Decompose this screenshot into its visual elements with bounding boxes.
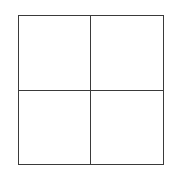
grid-cell-bottom-right bbox=[91, 91, 163, 164]
grid-cell-top-left bbox=[19, 16, 91, 91]
grid-cell-top-right bbox=[91, 16, 163, 91]
grid-cell-bottom-left bbox=[19, 91, 91, 164]
two-by-two-grid bbox=[18, 15, 164, 165]
canvas bbox=[0, 0, 178, 176]
